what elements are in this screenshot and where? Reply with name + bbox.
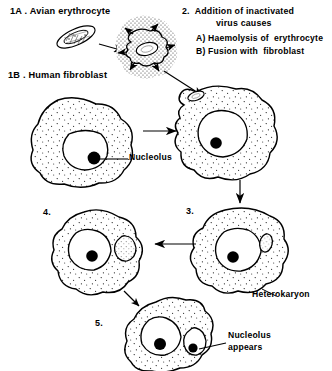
nucleolus-appears-line1: Nucleolus: [228, 330, 271, 340]
panel-fusion: [175, 86, 277, 180]
heterokaryon-large-nucleus: [216, 228, 261, 271]
fibroblast-nucleolus: [88, 152, 101, 165]
step-1a-heading: 1A . Avian erythrocyte: [10, 6, 110, 17]
swelling-nucleolus: [86, 250, 98, 262]
step-2-option-b: B) Fusion with fibroblast: [196, 46, 304, 56]
heterokaryon-nucleolus: [227, 251, 239, 263]
arrow-swelling-to-reactivated: [124, 291, 139, 306]
nucleolus-appears-line2: appears: [228, 342, 262, 352]
step-2-line2: virus causes: [216, 18, 272, 28]
panel-5-number: 5.: [95, 318, 103, 329]
nucleolus-appears-label: Nucleolusappears: [228, 330, 271, 353]
avian-erythrocyte-cell: [54, 21, 98, 52]
cell-fusion-figure: 1A . Avian erythrocyte 1B . Human fibrob…: [0, 0, 332, 371]
fusion-nucleolus: [210, 137, 222, 149]
heterokaryon-label: Heterokaryon: [252, 289, 310, 299]
panel-swelling: [52, 210, 143, 295]
step-1b-heading: 1B . Human fibroblast: [8, 70, 107, 81]
panel-4-number: 4.: [43, 207, 51, 218]
step-2-option-a: A) Haemolysis of erythrocyte: [196, 33, 323, 43]
reactivated-nucleolus-1: [154, 338, 166, 350]
fusion-large-nucleus: [198, 111, 247, 158]
panel-reactivated: [125, 297, 226, 371]
nucleolus-label: Nucleolus: [129, 152, 172, 162]
reactivated-nucleolus-2: [188, 343, 197, 352]
virus-cloud-haemolysis: [116, 16, 177, 80]
step-2-line1: 2. Addition of inactivated: [182, 6, 294, 16]
human-fibroblast-cell: [31, 98, 132, 188]
swelling-large-nucleus: [68, 229, 111, 270]
swelling-erythrocyte-nucleus: [115, 236, 136, 261]
panel-3-number: 3.: [186, 206, 194, 217]
panel-heterokaryon: [190, 208, 288, 296]
fibroblast-nucleus: [63, 131, 108, 171]
